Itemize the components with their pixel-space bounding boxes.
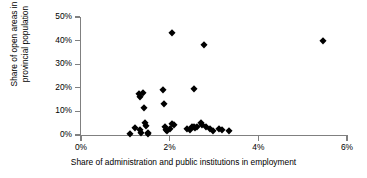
y-axis-tick xyxy=(75,64,80,65)
y-axis-tick xyxy=(75,16,80,17)
x-axis-tick-label: 4% xyxy=(238,142,278,152)
y-axis-tick xyxy=(75,134,80,135)
y-axis-tick-label: 30% xyxy=(32,58,72,68)
y-axis-title-line1: Share of open areas in xyxy=(9,0,20,104)
y-axis-tick-label: 20% xyxy=(32,82,72,92)
y-axis-tick xyxy=(75,87,80,88)
x-axis-tick-label: 0% xyxy=(61,142,101,152)
y-axis-tick-label: 10% xyxy=(32,105,72,115)
y-axis-tick xyxy=(75,40,80,41)
x-axis-tick xyxy=(258,136,259,141)
y-axis-title-line2: provincial population xyxy=(20,0,31,104)
y-axis-tick-label: 50% xyxy=(32,11,72,21)
plot-area xyxy=(81,17,347,135)
x-axis-tick xyxy=(80,136,81,141)
x-axis-title: Share of administration and public insti… xyxy=(0,157,367,167)
x-axis-tick xyxy=(346,136,347,141)
y-axis-tick xyxy=(75,111,80,112)
x-axis-tick xyxy=(169,136,170,141)
y-axis-tick-label: 0% xyxy=(32,129,72,139)
x-axis-tick-label: 6% xyxy=(327,142,367,152)
scatter-chart: Share of open areas in provincial popula… xyxy=(0,0,367,178)
x-axis-tick-label: 2% xyxy=(150,142,190,152)
y-axis-tick-label: 40% xyxy=(32,35,72,45)
